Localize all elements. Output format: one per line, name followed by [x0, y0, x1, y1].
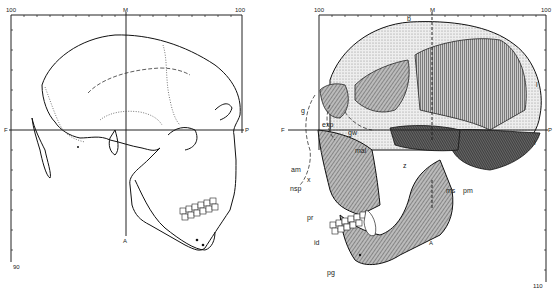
- label-id: id: [314, 239, 320, 246]
- scale-label-top-right: 100: [541, 7, 552, 13]
- zygomatic-arch: [168, 128, 197, 150]
- frontal-brow: [320, 84, 348, 118]
- cranium-outline: [42, 35, 240, 250]
- coronal-suture: [163, 45, 180, 125]
- skull-figure: 100 M 100 90 F P A: [0, 0, 558, 290]
- label-z: z: [403, 162, 407, 169]
- label-mal: mal: [355, 147, 367, 154]
- scale-label-top-left: 100: [314, 7, 325, 13]
- nasal-bone: [215, 104, 232, 120]
- axis-label-a: A: [429, 240, 433, 246]
- teeth: [180, 198, 218, 220]
- axis-label-f: F: [281, 127, 285, 133]
- label-gw: gw: [348, 129, 358, 137]
- right-panel: 100 M 100 110 F P A: [281, 7, 552, 289]
- temporal-line: [88, 68, 190, 93]
- mental-foramen-dot: [202, 244, 205, 247]
- mental-foramen-dot: [359, 254, 361, 256]
- mastoid-process: [109, 130, 118, 155]
- squamous-suture: [100, 111, 162, 125]
- axis-label-p: P: [548, 127, 552, 133]
- scale-label-bottom-right: 110: [533, 283, 543, 289]
- scale-label-top-right: 100: [235, 7, 246, 13]
- scale-label-top-mid: M: [123, 7, 128, 13]
- marker-dot: [77, 146, 79, 148]
- axis-label-f: F: [4, 127, 8, 133]
- left-panel: 100 M 100 90 F P A: [4, 7, 249, 270]
- occipital-edge: [32, 118, 50, 178]
- label-exp: exp: [322, 121, 333, 129]
- label-pr: pr: [307, 214, 314, 222]
- scale-label-bottom-left: 90: [13, 264, 20, 270]
- label-am: am: [291, 166, 301, 173]
- axis-label-p: P: [245, 127, 249, 133]
- label-g: g: [301, 107, 305, 115]
- label-pm: pm: [463, 187, 473, 195]
- label-ms: ms: [446, 187, 456, 194]
- occipital-dark: [450, 129, 540, 170]
- mental-foramen-dot: [196, 239, 199, 242]
- axis-label-a: A: [123, 238, 127, 244]
- label-pg: pg: [327, 269, 335, 277]
- label-x: x: [307, 176, 311, 183]
- label-nsp: nsp: [290, 185, 301, 193]
- lambdoid-suture: [45, 87, 85, 142]
- label-b: b: [407, 15, 411, 22]
- scale-label-top-left: 100: [6, 7, 17, 13]
